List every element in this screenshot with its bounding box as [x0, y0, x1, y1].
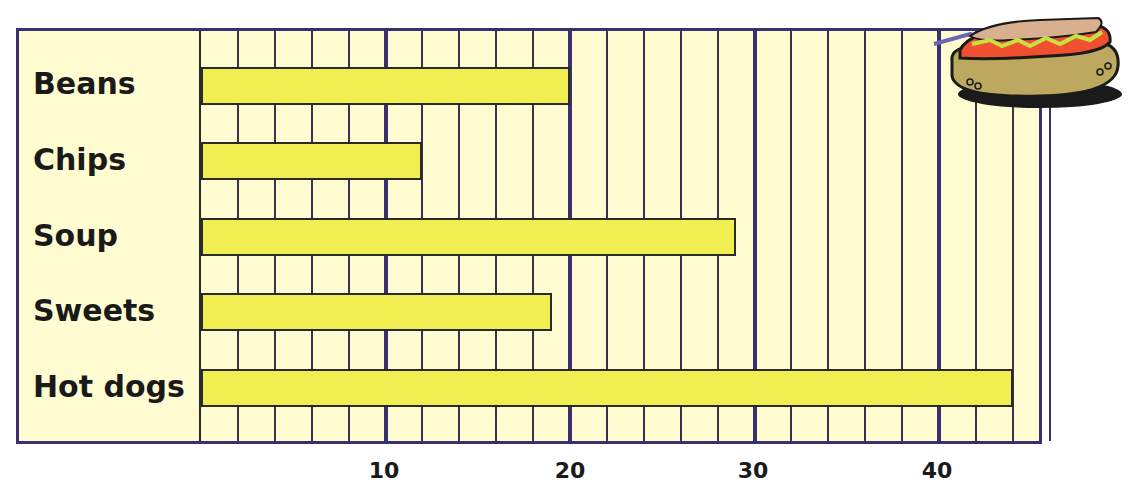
chart-frame: Beans Chips Soup Sweets Hot dogs — [16, 28, 1042, 444]
label-soup: Soup — [33, 221, 118, 251]
x-tick-40: 40 — [922, 458, 953, 483]
bar-hot-dogs — [201, 369, 1013, 407]
plot-area — [199, 31, 1039, 441]
bar-chips — [201, 142, 422, 180]
x-tick-10: 10 — [369, 458, 400, 483]
label-beans: Beans — [33, 69, 136, 99]
bar-beans — [201, 67, 570, 105]
label-hot-dogs: Hot dogs — [33, 372, 185, 402]
x-tick-30: 30 — [738, 458, 769, 483]
x-tick-20: 20 — [555, 458, 586, 483]
label-chips: Chips — [33, 145, 126, 175]
hot-dog-icon — [930, 6, 1130, 118]
category-labels: Beans Chips Soup Sweets Hot dogs — [19, 31, 199, 441]
bar-sweets — [201, 293, 552, 331]
bar-soup — [201, 218, 736, 256]
label-sweets: Sweets — [33, 296, 155, 326]
